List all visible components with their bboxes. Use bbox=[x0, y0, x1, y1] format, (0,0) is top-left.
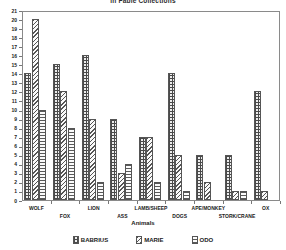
bar-group bbox=[166, 12, 195, 200]
legend-swatch-icon bbox=[136, 236, 142, 244]
y-tick-label: 15 bbox=[11, 63, 17, 68]
y-tick-label: 20 bbox=[11, 18, 17, 23]
x-tick-label: OX bbox=[262, 206, 269, 211]
x-tick-mark bbox=[223, 201, 224, 204]
bar bbox=[89, 119, 96, 200]
bar bbox=[118, 173, 125, 200]
bar bbox=[154, 182, 161, 200]
bar-group bbox=[252, 12, 281, 200]
y-tick-label: 12 bbox=[11, 90, 17, 95]
bar bbox=[139, 137, 146, 200]
bar bbox=[97, 182, 104, 200]
x-tick-label: WOLF bbox=[29, 206, 44, 211]
x-tick-label: LAMB/SHEEP bbox=[135, 206, 168, 211]
bar bbox=[204, 182, 211, 200]
y-tick-label: 3 bbox=[14, 171, 17, 176]
legend-item[interactable]: ODO bbox=[192, 236, 214, 244]
y-tick-label: 6 bbox=[14, 144, 17, 149]
x-tick-mark bbox=[251, 201, 252, 204]
x-tick-mark bbox=[137, 201, 138, 204]
y-tick-label: 10 bbox=[11, 108, 17, 113]
bar bbox=[68, 128, 75, 200]
bar-group bbox=[195, 12, 224, 200]
legend-swatch-icon bbox=[73, 236, 79, 244]
bar bbox=[32, 19, 39, 200]
y-tick-label: 13 bbox=[11, 81, 17, 86]
y-axis: 0123456789101112131415161718192021 bbox=[0, 11, 22, 201]
y-tick-label: 19 bbox=[11, 27, 17, 32]
legend-label: ODO bbox=[200, 237, 214, 243]
y-tick-label: 7 bbox=[14, 135, 17, 140]
bar bbox=[261, 191, 268, 200]
legend-item[interactable]: BABRIUS bbox=[73, 236, 108, 244]
y-tick-label: 14 bbox=[11, 72, 17, 77]
legend-swatch-icon bbox=[192, 236, 198, 244]
x-tick-label: LION bbox=[88, 206, 100, 211]
y-tick-label: 11 bbox=[12, 99, 17, 104]
bar-group bbox=[224, 12, 253, 200]
legend-item[interactable]: MARIE bbox=[136, 236, 163, 244]
bar-group bbox=[138, 12, 167, 200]
legend-label: MARIE bbox=[144, 237, 163, 243]
bar bbox=[254, 91, 261, 200]
y-tick-label: 16 bbox=[11, 54, 17, 59]
x-tick-mark bbox=[165, 201, 166, 204]
legend-label: BABRIUS bbox=[81, 237, 108, 243]
bar-group bbox=[80, 12, 109, 200]
bar bbox=[232, 191, 239, 200]
bar bbox=[183, 191, 190, 200]
y-tick-label: 1 bbox=[14, 189, 17, 194]
bar bbox=[168, 73, 175, 200]
chart-title: in Fable Collections bbox=[0, 0, 286, 5]
bar bbox=[39, 110, 46, 200]
y-tick-label: 8 bbox=[14, 126, 17, 131]
plot-area bbox=[22, 11, 280, 201]
bar-group bbox=[109, 12, 138, 200]
x-tick-mark bbox=[79, 201, 80, 204]
bar-group bbox=[52, 12, 81, 200]
x-tick-mark bbox=[51, 201, 52, 204]
x-tick-label: ASS bbox=[117, 214, 127, 219]
bar bbox=[146, 137, 153, 200]
bar bbox=[82, 55, 89, 200]
bar bbox=[125, 164, 132, 200]
bar-series-layer bbox=[23, 12, 279, 200]
bar-group bbox=[23, 12, 52, 200]
bar bbox=[110, 119, 117, 200]
x-tick-mark bbox=[108, 201, 109, 204]
chart-legend: BABRIUSMARIEODO bbox=[0, 234, 286, 246]
x-tick-label: FOX bbox=[60, 214, 70, 219]
bar bbox=[53, 64, 60, 200]
bar bbox=[240, 191, 247, 200]
y-tick-label: 5 bbox=[14, 153, 17, 158]
x-axis: WOLFFOXLIONASSLAMB/SHEEPDOGSAPE/MONKEYST… bbox=[22, 201, 280, 219]
y-tick-label: 17 bbox=[11, 45, 17, 50]
x-tick-mark bbox=[280, 201, 281, 204]
x-tick-mark bbox=[194, 201, 195, 204]
y-tick-label: 2 bbox=[14, 180, 17, 185]
bar bbox=[24, 73, 31, 200]
x-axis-title: Animals bbox=[0, 220, 286, 226]
bar bbox=[175, 155, 182, 200]
y-tick-label: 21 bbox=[11, 9, 17, 14]
bar bbox=[196, 155, 203, 200]
bar bbox=[60, 91, 67, 200]
x-tick-label: STORK/CRANE bbox=[219, 214, 256, 219]
y-tick-label: 0 bbox=[14, 199, 17, 204]
bar bbox=[225, 155, 232, 200]
chart-container: in Fable Collections 0123456789101112131… bbox=[0, 0, 286, 250]
y-tick-label: 4 bbox=[14, 162, 17, 167]
x-tick-label: APE/MONKEY bbox=[192, 206, 226, 211]
y-tick-label: 18 bbox=[11, 36, 17, 41]
x-tick-label: DOGS bbox=[172, 214, 187, 219]
y-tick-label: 9 bbox=[14, 117, 17, 122]
